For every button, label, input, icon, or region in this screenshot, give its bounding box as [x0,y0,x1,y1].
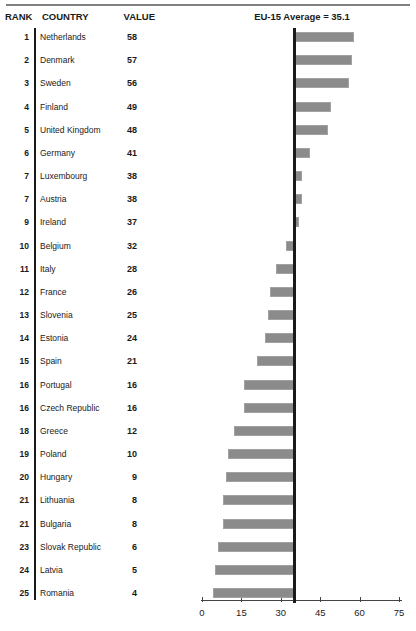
rank-cell: 10 [0,240,29,252]
deviation-bar [294,32,354,42]
value-cell: 28 [103,263,137,275]
deviation-bar [257,356,294,366]
value-cell: 25 [103,309,137,321]
value-cell: 5 [103,564,137,576]
deviation-bar [265,333,294,343]
country-cell: Poland [40,448,158,460]
value-cell: 9 [103,471,137,483]
rank-cell: 3 [0,77,29,89]
value-cell: 37 [103,216,137,228]
rank-cell: 20 [0,471,29,483]
rank-cell: 1 [0,31,29,43]
x-axis-tick-label: 15 [229,607,253,618]
country-cell: Bulgaria [40,518,158,530]
rank-cell: 12 [0,286,29,298]
country-cell: Germany [40,147,158,159]
country-cell: Portugal [40,379,158,391]
rank-cell: 21 [0,518,29,530]
deviation-bar [294,78,349,88]
deviation-bar [234,426,295,436]
value-cell: 12 [103,425,137,437]
rank-cell: 6 [0,147,29,159]
x-axis-tick [360,597,361,602]
deviation-bar [244,403,294,413]
value-cell: 56 [103,77,137,89]
deviation-bar [228,449,294,459]
rank-cell: 7 [0,193,29,205]
rank-cell: 16 [0,402,29,414]
value-cell: 38 [103,170,137,182]
country-cell: Estonia [40,332,158,344]
country-cell: Belgium [40,240,158,252]
deviation-bar [223,495,294,505]
value-cell: 6 [103,541,137,553]
rank-cell: 11 [0,263,29,275]
rank-cell: 21 [0,494,29,506]
country-cell: Romania [40,587,158,599]
country-cell: Latvia [40,564,158,576]
country-cell: Hungary [40,471,158,483]
deviation-bar [276,264,295,274]
country-cell: Greece [40,425,158,437]
value-cell: 57 [103,54,137,66]
country-cell: Sweden [40,77,158,89]
deviation-bar [213,588,295,598]
x-axis-tick [320,597,321,602]
value-cell: 48 [103,124,137,136]
rank-cell: 9 [0,216,29,228]
country-cell: Luxembourg [40,170,158,182]
rank-cell: 16 [0,379,29,391]
deviation-bar [218,542,294,552]
value-cell: 41 [103,147,137,159]
deviation-bar [223,519,294,529]
country-cell: Slovak Republic [40,541,158,553]
value-cell: 49 [103,101,137,113]
rank-cell: 15 [0,355,29,367]
value-cell: 10 [103,448,137,460]
deviation-bar [226,472,295,482]
x-axis-tick [399,597,400,602]
country-cell: Austria [40,193,158,205]
country-cell: Ireland [40,216,158,228]
country-cell: Denmark [40,54,158,66]
country-cell: Finland [40,101,158,113]
value-cell: 16 [103,402,137,414]
x-axis-tick [202,597,203,602]
rank-cell: 25 [0,587,29,599]
top-rule [6,4,410,6]
country-cell: Netherlands [40,31,158,43]
value-cell: 38 [103,193,137,205]
country-cell: Czech Republic [40,402,158,414]
value-cell: 58 [103,31,137,43]
value-cell: 21 [103,355,137,367]
deviation-bar [294,102,331,112]
eu15-average-line [293,28,296,603]
value-cell: 4 [103,587,137,599]
x-axis-tick-label: 30 [269,607,293,618]
rank-cell: 5 [0,124,29,136]
value-cell: 16 [103,379,137,391]
deviation-bar [268,310,295,320]
country-cell: Spain [40,355,158,367]
country-cell: France [40,286,158,298]
deviation-bar [270,287,294,297]
rank-cell: 7 [0,170,29,182]
deviation-bar [215,565,294,575]
x-axis-tick-label: 45 [308,607,332,618]
value-cell: 8 [103,518,137,530]
rank-cell: 4 [0,101,29,113]
header-value: VALUE [109,11,155,23]
rank-cell: 24 [0,564,29,576]
header-country: COUNTRY [42,11,89,23]
ranking-chart: RANK COUNTRY VALUE EU-15 Average = 35.1 … [0,0,416,631]
value-cell: 32 [103,240,137,252]
header-eu15-average: EU-15 Average = 35.1 [232,11,372,23]
rank-cell: 18 [0,425,29,437]
value-cell: 8 [103,494,137,506]
x-axis-line [201,600,402,601]
header-rank: RANK [5,11,32,23]
country-cell: Slovenia [40,309,158,321]
x-axis-tick-label: 60 [348,607,372,618]
country-cell: Lithuania [40,494,158,506]
deviation-bar [294,148,309,158]
